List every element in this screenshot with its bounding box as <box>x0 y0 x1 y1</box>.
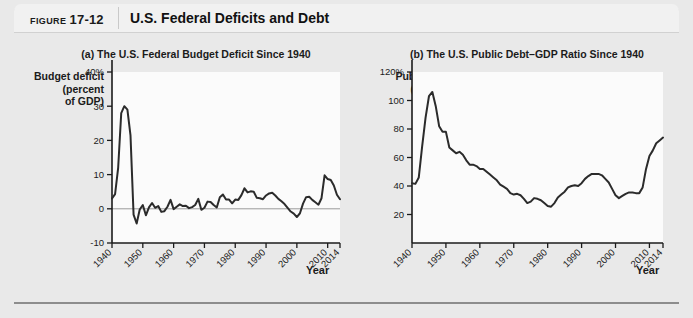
y-tick-label: 120% <box>380 66 405 77</box>
header-divider <box>118 7 119 29</box>
y-tick-label: 40 <box>393 180 404 191</box>
figure-number: FIGURE 17-12 <box>30 12 104 27</box>
x-tick-label: 1960 <box>152 247 175 270</box>
chart-panel-budget-deficit: (a) The U.S. Federal Budget Deficit Sinc… <box>6 36 356 286</box>
plot-area-b: 120%100806040201940195019601970198019902… <box>350 36 690 286</box>
x-tick-label: 2000 <box>276 247 299 270</box>
y-tick-label: 80 <box>393 123 404 134</box>
figure-number-word: FIGURE <box>30 16 66 26</box>
y-tick-label: 40% <box>85 66 105 77</box>
y-tick-label: 60 <box>393 152 404 163</box>
x-tick-label: 1980 <box>526 247 549 270</box>
plot-background <box>412 72 663 243</box>
x-tick-label: 1970 <box>183 247 206 270</box>
figure-panel: FIGURE 17-12 U.S. Federal Deficits and D… <box>0 0 693 318</box>
figure-header: FIGURE 17-12 U.S. Federal Deficits and D… <box>14 4 679 32</box>
x-tick-label: 1960 <box>459 247 482 270</box>
chart-panel-public-debt: (b) The U.S. Public Debt–GDP Ratio Since… <box>350 36 690 286</box>
x-tick-label: 1950 <box>121 247 144 270</box>
x-tick-label: 1990 <box>560 247 583 270</box>
figure-title: U.S. Federal Deficits and Debt <box>130 10 329 26</box>
plot-background <box>112 72 340 243</box>
bottom-rule <box>14 302 679 304</box>
x-tick-label: 2000 <box>594 247 617 270</box>
y-tick-label: 20 <box>93 135 104 146</box>
plot-area-a: 40%3020100-10194019501960197019801990200… <box>6 36 356 286</box>
x-tick-label: 1980 <box>214 247 237 270</box>
y-tick-label: 0 <box>99 203 104 214</box>
x-tick-label: 1940 <box>91 247 114 270</box>
x-tick-label: 1970 <box>492 247 515 270</box>
y-tick-label: 30 <box>93 101 104 112</box>
figure-number-value: 17-12 <box>70 12 104 27</box>
y-tick-label: 10 <box>93 169 104 180</box>
x-tick-label: 1940 <box>391 247 414 270</box>
y-tick-label: -10 <box>90 237 104 248</box>
x-tick-label: 1990 <box>245 247 268 270</box>
y-tick-label: 20 <box>393 209 404 220</box>
y-tick-label: 100 <box>388 95 404 106</box>
x-tick-label: 1950 <box>425 247 448 270</box>
